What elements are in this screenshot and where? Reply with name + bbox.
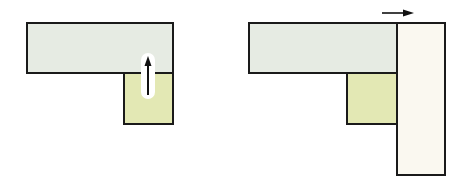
left-small-square <box>123 72 174 125</box>
arrow-right-icon <box>382 10 414 17</box>
right-vertical-bar <box>396 22 446 176</box>
left-horizontal-bar <box>26 22 174 74</box>
right-horizontal-bar <box>248 22 398 74</box>
right-small-square <box>346 72 398 125</box>
